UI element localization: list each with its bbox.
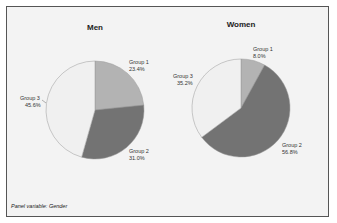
pie-charts: Men Group 1 23.4% Group 2 31.0% Group 3 … <box>0 0 337 223</box>
label-men-group1-value: 23.4% <box>129 66 145 72</box>
label-women-group2-value: 56.8% <box>282 149 298 155</box>
label-men-group3-name: Group 3 <box>20 95 40 101</box>
label-men-group2-name: Group 2 <box>129 148 149 154</box>
label-women-group1-name: Group 1 <box>253 46 273 52</box>
label-men-group2-value: 31.0% <box>129 155 145 161</box>
panel-variable-note: Panel variable: Gender <box>11 203 67 209</box>
label-women-group3-name: Group 3 <box>173 73 193 79</box>
label-women-group3-value: 35.2% <box>177 80 193 86</box>
label-women-group1-value: 8.0% <box>253 53 266 59</box>
pie-title-men: Men <box>87 23 103 32</box>
label-men-group1-name: Group 1 <box>129 59 149 65</box>
label-women-group2-name: Group 2 <box>282 142 302 148</box>
pie-title-women: Women <box>227 20 256 29</box>
pie-men: Men Group 1 23.4% Group 2 31.0% Group 3 … <box>20 23 149 161</box>
pie-women: Women Group 1 8.0% Group 2 56.8% Group 3… <box>173 20 302 157</box>
label-men-group3-value: 45.6% <box>25 102 41 108</box>
leader-line <box>42 100 46 103</box>
